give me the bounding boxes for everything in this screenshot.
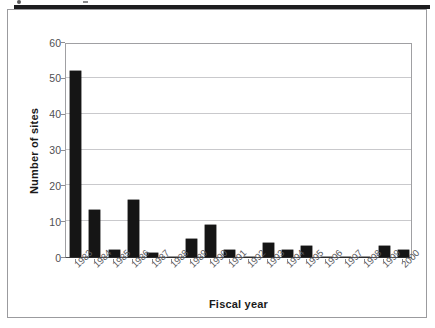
plot-area: [65, 43, 412, 258]
bar-slot: [66, 44, 85, 257]
bar[interactable]: [70, 71, 81, 257]
bar-slot: [297, 44, 316, 257]
bar-slot: [278, 44, 297, 257]
bar-slot: [143, 44, 162, 257]
bar-slot: [220, 44, 239, 257]
y-axis-tick-label: 10: [35, 217, 61, 228]
y-axis-tick-label: 50: [35, 73, 61, 84]
x-axis-title: Fiscal year: [65, 298, 412, 310]
bar-slot: [259, 44, 278, 257]
bar-slot: [162, 44, 181, 257]
x-axis-tick-group: 1983198419851986198719881989199019911992…: [65, 259, 412, 303]
bar-slot: [240, 44, 259, 257]
bar-slot: [394, 44, 413, 257]
y-axis-tick-label: 60: [35, 38, 61, 49]
bar-slot: [374, 44, 393, 257]
y-axis-tick-label: 40: [35, 109, 61, 120]
scan-artifact-speck: [17, 0, 21, 4]
bar-slot: [201, 44, 220, 257]
bar-slot: [85, 44, 104, 257]
bar-slot: [124, 44, 143, 257]
bar-chart: Number of sites 6050403020100 1983198419…: [8, 10, 428, 319]
bar-slot: [336, 44, 355, 257]
bar[interactable]: [128, 200, 139, 257]
bar[interactable]: [89, 210, 100, 257]
y-axis-tick-label: 30: [35, 145, 61, 156]
scan-artifact-speck: [83, 1, 88, 3]
bar-slot: [317, 44, 336, 257]
y-axis-tick-label: 0: [35, 253, 61, 264]
figure-frame: Number of sites 6050403020100 1983198419…: [7, 9, 427, 318]
y-axis-tick-label: 20: [35, 181, 61, 192]
bar-slot: [355, 44, 374, 257]
bar-slot: [105, 44, 124, 257]
y-axis-tick-group: 6050403020100: [27, 43, 61, 258]
bar-slot: [182, 44, 201, 257]
bars-group: [66, 44, 411, 257]
